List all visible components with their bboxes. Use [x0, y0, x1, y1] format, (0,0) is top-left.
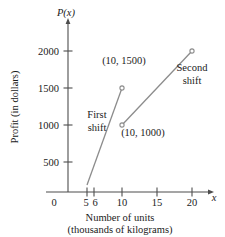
annotation-first-shift-line2: shift — [88, 122, 107, 133]
x-axis-symbol-label: x — [211, 192, 217, 203]
x-axis — [46, 190, 214, 195]
marker-point-10-1500 — [120, 86, 124, 90]
series-first-shift — [87, 86, 124, 185]
annotation-second-shift: Second shift — [177, 62, 209, 86]
x-tick-label-15: 15 — [152, 197, 163, 208]
point-label-10-1000: (10, 1000) — [121, 127, 165, 139]
x-tick-label-5: 5 — [83, 197, 88, 208]
marker-point-20-2000 — [190, 49, 194, 53]
y-axis-symbol-label: P(x) — [56, 7, 76, 19]
x-tick-label-10: 10 — [117, 197, 128, 208]
x-axis-caption-line1: Number of units — [86, 212, 155, 223]
annotation-first-shift-line1: First — [87, 109, 106, 120]
y-tick-label-1000: 1000 — [38, 120, 59, 131]
y-tick-label-1500: 1500 — [38, 83, 59, 94]
profit-function-chart: 500 1000 1500 2000 5 6 10 15 20 0 P(x) x… — [0, 0, 225, 237]
annotation-second-shift-line2: shift — [183, 75, 202, 86]
y-axis-title: Profit (in dollars) — [9, 70, 21, 143]
y-axis — [66, 18, 71, 192]
annotation-second-shift-line1: Second — [177, 62, 209, 73]
point-label-10-1500: (10, 1500) — [102, 55, 146, 67]
x-tick-label-20: 20 — [187, 197, 198, 208]
annotation-first-shift: First shift — [87, 109, 106, 133]
x-tick-label-6: 6 — [92, 197, 97, 208]
y-tick-label-500: 500 — [43, 157, 59, 168]
chart-canvas: 500 1000 1500 2000 5 6 10 15 20 0 P(x) x… — [0, 0, 225, 237]
origin-label: 0 — [51, 197, 56, 208]
y-tick-label-2000: 2000 — [38, 46, 59, 57]
x-axis-caption-line2: (thousands of kilograms) — [68, 224, 173, 236]
